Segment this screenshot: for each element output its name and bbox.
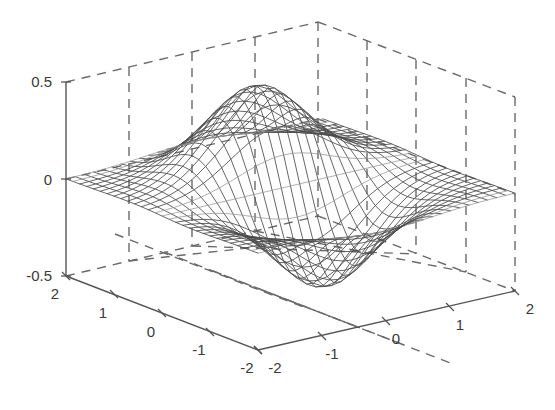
y-tick-label-0: -2 bbox=[268, 359, 281, 376]
mesh-gridline bbox=[162, 156, 419, 216]
x-tick-label-2: 0 bbox=[147, 323, 155, 340]
y-tick-label-1: -1 bbox=[325, 345, 338, 362]
y-tick-label-4: 2 bbox=[526, 300, 534, 317]
figure-canvas: 0.5 0 -0.5 2 1 0 -1 -2 -2 -1 0 1 2 bbox=[0, 0, 555, 410]
x-tick-label-4: -2 bbox=[240, 359, 253, 376]
x-tick-label-3: -1 bbox=[192, 341, 205, 358]
x-tick-label-1: 1 bbox=[99, 304, 107, 321]
x-tick-label-0: 2 bbox=[51, 285, 59, 302]
z-tick-label-1: 0 bbox=[44, 171, 52, 188]
surface-plot-svg: 0.5 0 -0.5 2 1 0 -1 -2 -2 -1 0 1 2 bbox=[0, 0, 555, 410]
z-tick-label-2: -0.5 bbox=[26, 267, 52, 284]
mesh-gridline bbox=[80, 124, 337, 184]
y-axis-line bbox=[258, 291, 515, 350]
x-tick-0 bbox=[158, 309, 166, 317]
y-tick-label-3: 1 bbox=[456, 316, 464, 333]
mesh-surface bbox=[66, 85, 515, 287]
mesh-gridline bbox=[244, 188, 501, 248]
y-tick-label-2: 0 bbox=[392, 330, 400, 347]
z-tick-label-0: 0.5 bbox=[31, 73, 52, 90]
box-top-back-right-edge bbox=[318, 22, 515, 97]
